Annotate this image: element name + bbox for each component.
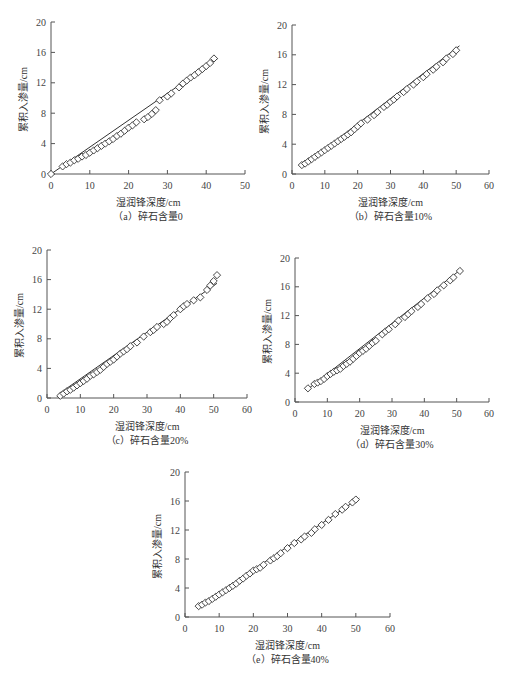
plot-area-b: 0481216200102030405060 (292, 25, 489, 174)
data-point-marker (133, 339, 140, 346)
x-tick-label: 60 (484, 408, 494, 419)
caption-d: （d）碎石含量30% (295, 436, 489, 451)
subplot-c: 0481216200102030405060 累积入渗量/cm 湿润锋深度/cm… (47, 250, 247, 398)
y-tick-label: 0 (41, 169, 46, 180)
x-tick-label: 10 (75, 404, 85, 415)
x-tick-label: 40 (419, 408, 429, 419)
y-tick-label: 0 (37, 393, 42, 404)
y-axis-label-d: 累积入渗量/cm (259, 299, 274, 364)
y-tick-label: 4 (282, 139, 287, 150)
y-tick-label: 20 (277, 20, 287, 31)
y-tick-label: 20 (36, 17, 46, 28)
x-tick-label: 60 (242, 404, 252, 415)
x-axis-label-b: 湿润锋深度/cm (292, 194, 489, 209)
data-point-marker (456, 267, 463, 274)
x-tick-label: 10 (320, 180, 330, 191)
data-point-marker (197, 294, 204, 301)
x-tick-label: 50 (452, 408, 462, 419)
x-tick-label: 10 (85, 180, 95, 191)
plot-area-d: 0481216200102030405060 (295, 258, 489, 402)
x-tick-label: 60 (484, 180, 494, 191)
y-axis-label-e: 累积入渗量/cm (149, 514, 164, 579)
x-tick-label: 50 (240, 180, 250, 191)
x-tick-label: 0 (183, 623, 188, 634)
x-tick-label: 40 (175, 404, 185, 415)
caption-e: （e）碎石含量40% (185, 651, 390, 666)
x-tick-label: 20 (353, 180, 363, 191)
plot-area-a: 04812162001020304050 (51, 22, 245, 174)
y-tick-label: 20 (170, 467, 180, 478)
data-point-marker (440, 282, 447, 289)
subplot-b: 0481216200102030405060 累积入渗量/cm 湿润锋深度/cm… (292, 25, 489, 174)
x-tick-label: 10 (322, 408, 332, 419)
data-point-marker (140, 333, 147, 340)
data-point-marker (424, 295, 431, 302)
x-tick-label: 40 (201, 180, 211, 191)
x-tick-label: 50 (351, 623, 361, 634)
y-tick-label: 12 (36, 77, 46, 88)
subplot-d: 0481216200102030405060 累积入渗量/cm 湿润锋深度/cm… (295, 258, 489, 402)
x-tick-label: 20 (248, 623, 258, 634)
y-tick-label: 0 (175, 612, 180, 623)
plot-area-c: 0481216200102030405060 (47, 250, 247, 398)
x-axis-label-e: 湿润锋深度/cm (185, 637, 390, 652)
x-tick-label: 50 (209, 404, 219, 415)
y-tick-label: 20 (32, 245, 42, 256)
data-point-marker (156, 97, 163, 104)
caption-c: （c）碎石含量20% (47, 432, 247, 447)
y-tick-label: 4 (175, 583, 180, 594)
y-tick-label: 0 (285, 397, 290, 408)
x-tick-label: 20 (124, 180, 134, 191)
y-tick-label: 4 (285, 368, 290, 379)
caption-b: （b）碎石含量10% (292, 208, 489, 223)
y-tick-label: 16 (36, 47, 46, 58)
y-tick-label: 8 (282, 109, 287, 120)
x-tick-label: 20 (109, 404, 119, 415)
y-tick-label: 16 (32, 274, 42, 285)
y-tick-label: 20 (280, 253, 290, 264)
y-tick-label: 16 (280, 281, 290, 292)
y-axis-label-b: 累积入渗量/cm (256, 69, 271, 134)
y-tick-label: 8 (285, 339, 290, 350)
x-tick-label: 30 (387, 408, 397, 419)
x-tick-label: 50 (451, 180, 461, 191)
x-tick-label: 10 (214, 623, 224, 634)
x-tick-label: 0 (290, 180, 295, 191)
y-axis-label-a: 累积入渗量/cm (15, 67, 30, 132)
y-tick-label: 0 (282, 169, 287, 180)
subplot-a: 04812162001020304050 累积入渗量/cm 湿润锋深度/cm （… (51, 22, 245, 174)
x-axis-label-a: 湿润锋深度/cm (51, 194, 245, 209)
x-tick-label: 30 (283, 623, 293, 634)
data-point-marker (304, 385, 311, 392)
y-tick-label: 12 (32, 304, 42, 315)
subplot-e: 0481216200102030405060 累积入渗量/cm 湿润锋深度/cm… (185, 472, 390, 617)
y-tick-label: 16 (170, 496, 180, 507)
x-tick-label: 30 (162, 180, 172, 191)
x-tick-label: 40 (317, 623, 327, 634)
data-point-marker (364, 116, 371, 123)
y-tick-label: 12 (277, 79, 287, 90)
y-tick-label: 8 (37, 333, 42, 344)
x-tick-label: 60 (385, 623, 395, 634)
data-point-marker (284, 545, 291, 552)
x-axis-label-d: 湿润锋深度/cm (295, 422, 489, 437)
plot-area-e: 0481216200102030405060 (185, 472, 390, 617)
y-tick-label: 16 (277, 49, 287, 60)
y-tick-label: 8 (175, 554, 180, 565)
y-tick-label: 4 (37, 363, 42, 374)
x-tick-label: 30 (386, 180, 396, 191)
x-tick-label: 0 (293, 408, 298, 419)
y-axis-label-c: 累积入渗量/cm (11, 293, 26, 358)
y-tick-label: 12 (280, 310, 290, 321)
y-tick-label: 4 (41, 138, 46, 149)
x-tick-label: 40 (418, 180, 428, 191)
x-tick-label: 30 (142, 404, 152, 415)
data-point-marker (47, 170, 54, 177)
y-tick-label: 8 (41, 108, 46, 119)
y-tick-label: 12 (170, 525, 180, 536)
x-tick-label: 20 (355, 408, 365, 419)
x-tick-label: 0 (45, 404, 50, 415)
x-axis-label-c: 湿润锋深度/cm (47, 418, 247, 433)
x-tick-label: 0 (49, 180, 54, 191)
caption-a: （a）碎石含量0 (51, 208, 245, 223)
